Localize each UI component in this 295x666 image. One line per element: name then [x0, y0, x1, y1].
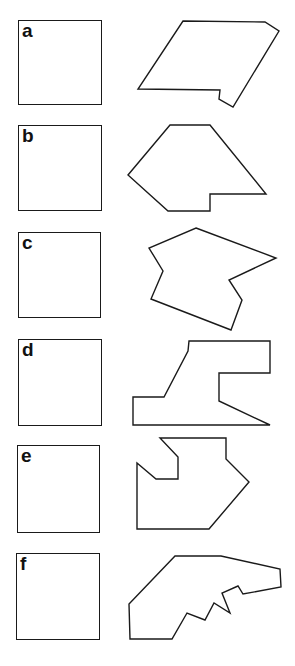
irregular-shape-c: [149, 228, 276, 330]
irregular-shape-a: [138, 21, 279, 107]
irregular-shape-d: [133, 341, 270, 425]
irregular-shape-e: [137, 438, 249, 529]
irregular-shape-f: [129, 556, 281, 639]
irregular-shape-b: [128, 125, 266, 211]
irregular-shapes-layer: [0, 0, 295, 666]
